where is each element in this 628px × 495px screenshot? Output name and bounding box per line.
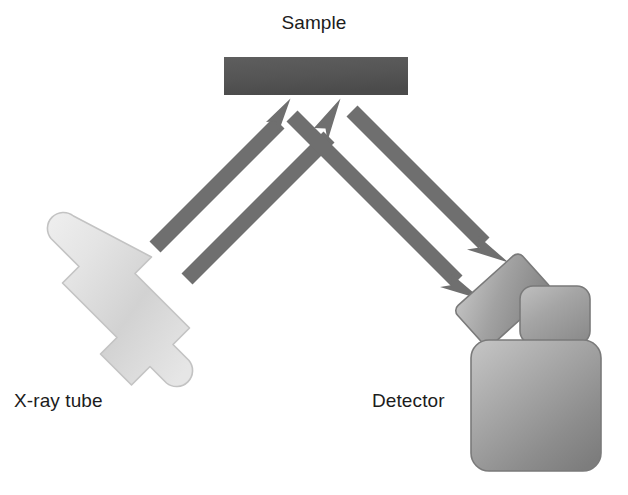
xray-tube-label: X-ray tube (14, 390, 103, 412)
diagram-canvas (0, 0, 628, 495)
detector-label: Detector (372, 390, 445, 412)
incident-beam-1 (150, 99, 291, 253)
detector-assembly (453, 251, 601, 471)
beam-group (150, 99, 509, 300)
detector-mid-housing (520, 286, 590, 344)
xrd-diagram: Sample X-ray tube Detector (0, 0, 628, 495)
detector-main-body (471, 340, 601, 471)
sample-label: Sample (0, 12, 628, 34)
sample-bar (224, 57, 408, 95)
